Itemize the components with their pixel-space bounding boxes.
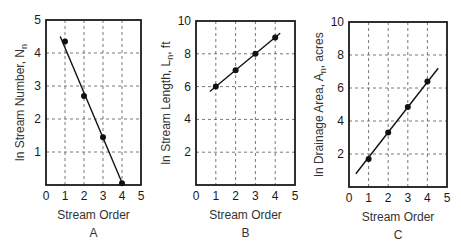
data-point xyxy=(405,104,411,110)
y-tick-label: 10 xyxy=(178,14,192,28)
chart-panel-a: 01234512345Stream OrderAln Stream Number… xyxy=(13,13,145,240)
data-point xyxy=(424,78,430,84)
gridlines xyxy=(196,21,295,185)
y-tick-label: 8 xyxy=(184,47,191,61)
data-point xyxy=(81,93,87,99)
figure: 01234512345Stream OrderAln Stream Number… xyxy=(0,0,461,246)
x-tick-label: 0 xyxy=(43,189,50,203)
x-tick-label: 3 xyxy=(100,189,107,203)
panel-label: A xyxy=(89,226,97,240)
y-tick-label: 5 xyxy=(34,13,41,27)
y-tick-label: 1 xyxy=(34,145,41,159)
x-tick-label: 5 xyxy=(138,189,145,203)
x-axis-label: Stream Order xyxy=(209,208,282,222)
x-tick-label: 3 xyxy=(252,189,259,203)
x-tick-label: 1 xyxy=(212,189,219,203)
data-point xyxy=(366,156,372,162)
y-axis-label: ln Stream Length, Ln, ft xyxy=(159,41,175,165)
y-tick-label: 4 xyxy=(337,114,344,128)
chart-panel-b: 012345246810Stream OrderBln Stream Lengt… xyxy=(159,14,299,240)
panel-label: C xyxy=(394,228,403,242)
x-tick-label: 5 xyxy=(292,189,299,203)
x-tick-label: 3 xyxy=(404,191,411,205)
fit-line xyxy=(210,33,280,91)
data-point xyxy=(252,51,258,57)
y-tick-label: 3 xyxy=(34,79,41,93)
x-axis-label: Stream Order xyxy=(57,208,130,222)
y-tick-label: 6 xyxy=(184,80,191,94)
y-tick-label: 4 xyxy=(34,46,41,60)
fit-line xyxy=(60,37,123,186)
y-tick-label: 4 xyxy=(184,112,191,126)
x-tick-label: 0 xyxy=(346,191,353,205)
panel-label: B xyxy=(241,226,249,240)
plot-frame xyxy=(349,22,447,187)
data-point xyxy=(100,134,106,140)
y-tick-label: 2 xyxy=(34,112,41,126)
x-tick-label: 4 xyxy=(424,191,431,205)
data-point xyxy=(233,67,239,73)
y-tick-label: 2 xyxy=(184,145,191,159)
x-tick-label: 4 xyxy=(272,189,279,203)
x-tick-label: 4 xyxy=(119,189,126,203)
y-tick-label: 8 xyxy=(337,48,344,62)
y-tick-label: 6 xyxy=(337,81,344,95)
x-axis-label: Stream Order xyxy=(362,210,435,224)
plot-frame xyxy=(46,20,141,185)
y-tick-label: 2 xyxy=(337,147,344,161)
y-axis-label: ln Stream Number, Nn xyxy=(13,44,29,161)
data-point xyxy=(62,38,68,44)
gridlines xyxy=(349,22,447,187)
data-point xyxy=(119,180,125,186)
x-tick-label: 5 xyxy=(444,191,451,205)
x-tick-label: 0 xyxy=(193,189,200,203)
data-point xyxy=(213,84,219,90)
y-tick-label: 10 xyxy=(331,15,345,29)
x-tick-label: 1 xyxy=(62,189,69,203)
x-tick-label: 2 xyxy=(81,189,88,203)
gridlines xyxy=(46,20,141,185)
y-axis-label: ln Drainage Area, An, acres xyxy=(312,32,328,176)
x-tick-label: 2 xyxy=(232,189,239,203)
x-tick-label: 2 xyxy=(385,191,392,205)
data-point xyxy=(272,34,278,40)
x-tick-label: 1 xyxy=(365,191,372,205)
data-point xyxy=(385,130,391,136)
chart-panel-c: 012345246810Stream OrderCln Drainage Are… xyxy=(312,15,451,242)
plot-frame xyxy=(196,21,295,185)
